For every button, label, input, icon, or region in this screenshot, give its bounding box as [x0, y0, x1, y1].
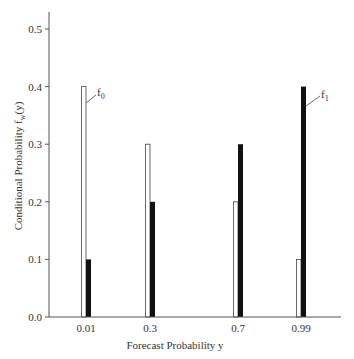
svg-text:Conditional Probability fw(y): Conditional Probability fw(y)	[12, 101, 27, 230]
svg-text:f1: f1	[321, 88, 329, 103]
y-tick-label: 0.0	[28, 311, 42, 323]
annotation-f1: f1	[306, 88, 329, 106]
y-tick-label: 0.4	[28, 81, 42, 93]
x-tick-label: 0.01	[76, 322, 95, 334]
y-axis-title-tail: (y)	[12, 101, 25, 114]
bars-group	[82, 87, 307, 317]
x-axis-title: Forecast Probability y	[126, 339, 224, 351]
x-ticks: 0.010.30.70.99	[76, 322, 311, 334]
bar-f1-0.7	[238, 144, 243, 317]
y-tick-label: 0.5	[28, 23, 42, 35]
bar-f0-0.01	[82, 87, 87, 317]
bar-f0-0.99	[297, 259, 302, 317]
annotation-f0: f0	[86, 86, 105, 103]
x-tick-label: 0.3	[143, 322, 157, 334]
y-axis-title: Conditional Probability fw(y)	[12, 101, 27, 230]
x-tick-label: 0.99	[291, 322, 311, 334]
y-ticks: 0.00.10.20.30.40.5	[28, 23, 49, 323]
bar-f1-0.99	[301, 87, 306, 317]
y-tick-label: 0.1	[28, 253, 42, 265]
chart-canvas: 0.00.10.20.30.40.5 0.010.30.70.99 Foreca…	[0, 0, 354, 359]
x-tick-label: 0.7	[231, 322, 245, 334]
y-tick-label: 0.3	[28, 138, 42, 150]
svg-text:f0: f0	[97, 86, 105, 101]
y-axis-title-main: Conditional Probability f	[12, 120, 24, 230]
bar-f1-0.3	[150, 202, 155, 317]
bar-f0-0.3	[146, 144, 151, 317]
bar-f0-0.7	[234, 202, 239, 317]
y-tick-label: 0.2	[28, 196, 42, 208]
bar-f1-0.01	[86, 259, 91, 317]
